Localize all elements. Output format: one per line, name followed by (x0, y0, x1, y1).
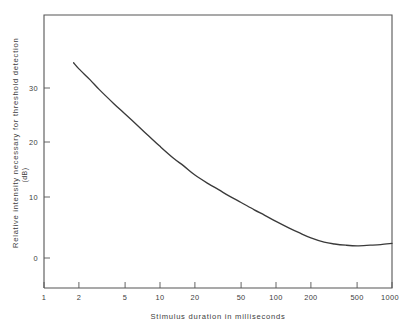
x-tick-label-20: 20 (190, 293, 199, 302)
x-tick-label-50: 50 (237, 293, 246, 302)
x-tick-label-10: 10 (156, 293, 165, 302)
x-axis-title: Stimulus duration in milliseconds (151, 312, 286, 321)
y-axis-unit-label: (dB) (21, 168, 29, 183)
y-axis-title: Relative intensity necessary for thresho… (11, 38, 20, 248)
x-tick-label-200: 200 (304, 293, 317, 302)
x-tick-label-1: 1 (42, 293, 46, 302)
x-axis-ticks (44, 282, 392, 288)
threshold-detection-curve (74, 63, 392, 246)
y-tick-label-20: 20 (29, 138, 38, 147)
y-tick-label-10: 10 (29, 193, 38, 202)
x-tick-label-100: 100 (269, 293, 282, 302)
chart-svg: 0 10 20 30 1 2 5 10 20 50 100 20 (0, 0, 411, 332)
x-tick-label-2: 2 (77, 293, 81, 302)
y-tick-label-30: 30 (29, 84, 38, 93)
y-axis-tick-labels: 0 10 20 30 (29, 84, 38, 263)
y-axis-ticks (44, 88, 50, 258)
y-tick-label-0: 0 (34, 254, 38, 263)
figure-container: 0 10 20 30 1 2 5 10 20 50 100 20 (0, 0, 411, 332)
x-axis-tick-labels: 1 2 5 10 20 50 100 200 500 1000 (42, 293, 399, 302)
x-tick-label-1000: 1000 (381, 293, 399, 302)
x-tick-label-500: 500 (350, 293, 363, 302)
plot-frame (44, 15, 392, 288)
x-tick-label-5: 5 (123, 293, 127, 302)
